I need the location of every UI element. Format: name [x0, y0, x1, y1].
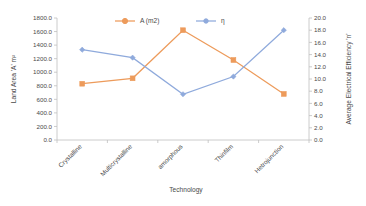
right-tick-label: 6.0: [314, 100, 323, 107]
x-axis-title: Technology: [169, 186, 203, 194]
chart-container: 0.0200.0400.0600.0800.01000.01200.01400.…: [0, 0, 366, 206]
legend-marker-a: [122, 18, 127, 23]
right-tick-label: 0.0: [314, 136, 323, 143]
left-tick-label: 1800.0: [33, 14, 52, 21]
data-point-marker: [80, 81, 85, 86]
left-tick-label: 1000.0: [33, 68, 52, 75]
line-chart: 0.0200.0400.0600.0800.01000.01200.01400.…: [0, 0, 366, 206]
left-tick-label: 400.0: [37, 109, 53, 116]
right-tick-label: 18.0: [314, 26, 327, 33]
right-tick-label: 12.0: [314, 63, 327, 70]
right-tick-label: 4.0: [314, 112, 323, 119]
right-tick-label: 16.0: [314, 39, 327, 46]
left-tick-label: 1600.0: [33, 28, 52, 35]
left-tick-label: 0.0: [43, 136, 52, 143]
right-tick-label: 10.0: [314, 75, 327, 82]
right-tick-label: 8.0: [314, 87, 323, 94]
left-tick-label: 800.0: [37, 82, 53, 89]
left-axis-title: Land Area 'A' m²: [10, 54, 17, 103]
legend-label-a: A (m2): [140, 17, 159, 25]
right-tick-label: 2.0: [314, 124, 323, 131]
right-tick-label: 20.0: [314, 14, 327, 21]
left-tick-label: 1200.0: [33, 55, 52, 62]
right-axis-title: Average Electrical Efficiency 'n': [345, 34, 353, 125]
right-tick-label: 14.0: [314, 51, 327, 58]
legend-label-eta: η: [221, 17, 225, 25]
left-tick-label: 1400.0: [33, 41, 52, 48]
data-point-marker: [231, 58, 236, 63]
data-point-marker: [130, 76, 135, 81]
left-tick-label: 600.0: [37, 96, 53, 103]
data-point-marker: [181, 28, 186, 33]
left-tick-label: 200.0: [37, 123, 53, 130]
data-point-marker: [281, 92, 286, 97]
legend-marker-eta: [204, 19, 208, 23]
